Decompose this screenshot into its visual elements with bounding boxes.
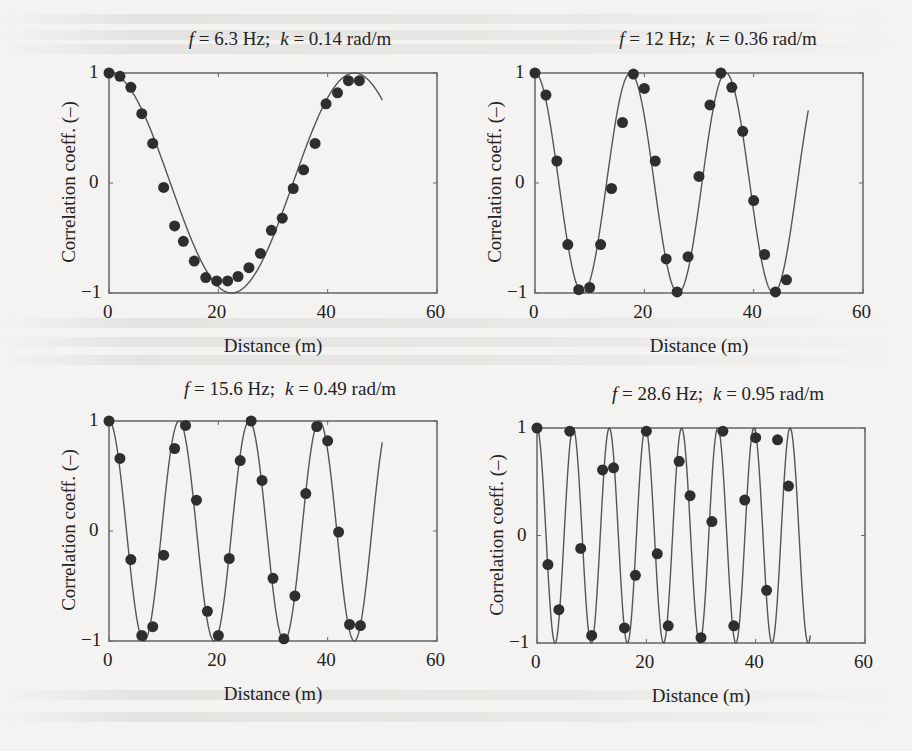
x-tick-label: 0: [531, 651, 541, 673]
x-tick-label: 0: [529, 301, 539, 323]
data-point: [180, 420, 191, 431]
y-tick-label: 0: [89, 171, 99, 193]
data-point: [333, 527, 344, 538]
plot-area: [109, 421, 437, 641]
data-point: [277, 213, 288, 224]
x-tick-label: 0: [103, 649, 113, 671]
data-point: [169, 443, 180, 454]
data-point: [289, 590, 300, 601]
data-point: [770, 286, 781, 297]
data-point: [532, 423, 543, 434]
data-point: [288, 183, 299, 194]
data-point: [772, 434, 783, 445]
data-point: [652, 548, 663, 559]
wavenumber-value: = 0.14 rad/m: [289, 28, 392, 49]
data-point: [685, 490, 696, 501]
data-point: [114, 71, 125, 82]
data-point: [354, 75, 365, 86]
data-point: [257, 475, 268, 486]
plot-area: [535, 73, 863, 293]
frequency-value: = 6.3 Hz;: [194, 28, 270, 49]
chart-title: f = 12 Hz;k = 0.36 rad/m: [578, 28, 858, 50]
data-point: [672, 286, 683, 297]
data-point: [222, 275, 233, 286]
x-axis-label: Distance (m): [599, 335, 799, 357]
data-point: [355, 620, 366, 631]
x-tick-label: 60: [852, 301, 871, 323]
y-tick-label: 1: [515, 61, 525, 83]
y-tick-label: −1: [507, 281, 527, 303]
data-point: [191, 495, 202, 506]
chart-title: f = 28.6 Hz;k = 0.95 rad/m: [578, 383, 858, 405]
data-point: [748, 195, 759, 206]
data-point: [781, 274, 792, 285]
data-point: [595, 239, 606, 250]
x-axis-label: Distance (m): [173, 335, 373, 357]
data-point: [268, 573, 279, 584]
data-point: [530, 68, 541, 79]
data-point: [243, 262, 254, 273]
data-point: [104, 68, 115, 79]
data-point: [617, 117, 628, 128]
data-point: [322, 435, 333, 446]
data-point: [630, 570, 641, 581]
y-tick-label: 0: [517, 524, 527, 546]
plot-frame: [109, 421, 437, 641]
data-point: [266, 225, 277, 236]
chart-title: f = 6.3 Hz;k = 0.14 rad/m: [150, 28, 430, 50]
y-tick-label: −1: [81, 629, 101, 651]
data-point: [661, 253, 672, 264]
y-tick-label: −1: [81, 281, 101, 303]
data-point: [759, 249, 770, 260]
data-point: [125, 82, 136, 93]
data-point: [674, 456, 685, 467]
show-through-line: [0, 14, 912, 24]
data-point: [542, 559, 553, 570]
data-point: [696, 632, 707, 643]
x-tick-label: 60: [426, 301, 445, 323]
data-point: [246, 416, 257, 427]
data-point: [715, 68, 726, 79]
data-point: [321, 98, 332, 109]
data-point: [628, 69, 639, 80]
data-point: [562, 239, 573, 250]
x-tick-label: 20: [635, 651, 654, 673]
data-point: [200, 272, 211, 283]
data-point: [211, 275, 222, 286]
wavenumber-symbol: k: [280, 28, 288, 49]
data-point: [213, 630, 224, 641]
data-point: [278, 633, 289, 644]
fit-curve: [535, 73, 808, 293]
x-tick-label: 40: [317, 301, 336, 323]
data-point: [750, 432, 761, 443]
data-point: [233, 271, 244, 282]
show-through-line: [0, 712, 912, 722]
data-point: [639, 83, 650, 94]
wavenumber-value: = 0.36 rad/m: [714, 28, 817, 49]
fit-curve: [537, 428, 810, 643]
data-point: [650, 156, 661, 167]
y-axis-label: Correlation coeff. (–): [486, 420, 508, 650]
x-tick-label: 60: [854, 651, 873, 673]
data-point: [694, 171, 705, 182]
x-tick-label: 20: [207, 649, 226, 671]
show-through-line: [0, 318, 912, 328]
data-point: [125, 554, 136, 565]
data-point: [586, 630, 597, 641]
wavenumber-value: = 0.95 rad/m: [721, 383, 824, 404]
data-point: [343, 75, 354, 86]
data-point: [169, 220, 180, 231]
chart-title: f = 15.6 Hz;k = 0.49 rad/m: [150, 378, 430, 400]
data-point: [540, 90, 551, 101]
data-point: [344, 619, 355, 630]
plot-frame: [109, 73, 437, 293]
data-point: [114, 453, 125, 464]
data-point: [608, 462, 619, 473]
data-point: [310, 138, 321, 149]
data-point: [104, 416, 115, 427]
x-tick-label: 40: [317, 649, 336, 671]
data-point: [573, 284, 584, 295]
data-point: [606, 183, 617, 194]
data-point: [147, 621, 158, 632]
plot-frame: [535, 73, 863, 293]
